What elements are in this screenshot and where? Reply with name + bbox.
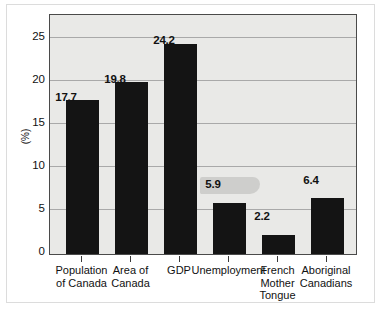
bar-population-of-canada [66,100,99,254]
y-tick-label-15: 15 [19,116,45,128]
y-axis-label: (%) [20,129,31,145]
x-tickmark-gdp [179,256,180,262]
bar-value-population-of-canada: 17.7 [38,91,94,103]
bar-aboriginal-canadians [311,198,344,254]
x-axis-label-line: Aboriginal [291,264,361,277]
bar-french-mother-tongue [262,235,295,254]
bar-value-unemployment: 5.9 [185,178,241,190]
x-axis-label-line: Canada [98,277,163,290]
bar-area-of-canada [115,82,148,254]
bar-value-aboriginal-canadians: 6.4 [283,174,339,186]
y-tick-label-5: 5 [19,202,45,214]
x-axis-label-line: Tongue [249,289,306,302]
figure-container: 17.7 19.8 24.2 5.9 2.2 6.4 (%) 25 20 15 … [0,0,388,319]
x-tickmark-french-mother-tongue [277,256,278,262]
y-tick-label-25: 25 [19,30,45,42]
y-tick-label-10: 10 [19,159,45,171]
x-axis-label-aboriginal-canadians: Aboriginal Canadians [291,264,361,289]
gridline-25 [50,37,356,38]
x-tickmark-area-of-canada [130,256,131,262]
figure-caption [8,309,380,319]
x-axis-label-line: Canadians [291,277,361,290]
x-tickmark-unemployment [228,256,229,262]
bar-value-french-mother-tongue: 2.2 [234,210,290,222]
bar-value-gdp: 24.2 [136,34,192,46]
chart-plot-area [49,14,357,255]
bar-value-area-of-canada: 19.8 [87,73,143,85]
x-tickmark-aboriginal-canadians [326,256,327,262]
x-tickmark-population-of-canada [81,256,82,262]
y-tick-label-0: 0 [19,245,45,257]
y-tick-label-20: 20 [19,73,45,85]
bar-gdp [164,44,197,254]
